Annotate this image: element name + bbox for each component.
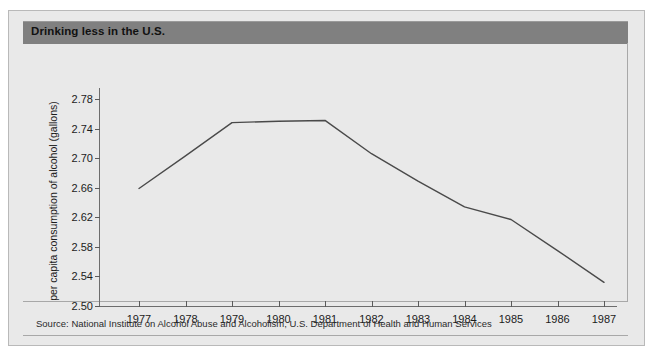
y-axis-tick-mark (95, 306, 100, 307)
footer-divider (23, 335, 628, 336)
chart-header-bar: Drinking less in the U.S. (23, 21, 628, 44)
plot-frame: per capita consumption of alcohol (gallo… (23, 43, 628, 302)
x-axis-line (99, 306, 617, 307)
chart-card: Drinking less in the U.S. per capita con… (8, 10, 645, 346)
x-axis-tick-label: 1987 (576, 313, 632, 325)
series-line-alcohol-consumption (139, 120, 604, 282)
page-title: Drinking less in the U.S. (31, 25, 165, 37)
source-note: Source: National Institute on Alcohol Ab… (36, 318, 492, 329)
line-series-chart (23, 43, 628, 302)
